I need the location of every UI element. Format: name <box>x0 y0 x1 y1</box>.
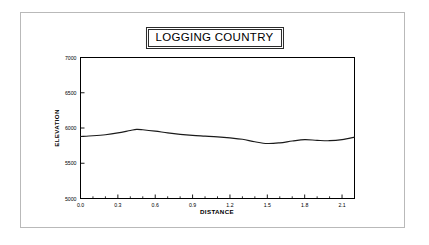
x-axis-title: DISTANCE <box>200 208 234 215</box>
x-tick-label: 1.8 <box>301 202 308 208</box>
y-tick-label: 7000 <box>65 55 77 61</box>
y-axis-title: ELEVATION <box>53 109 60 147</box>
plot-area-rect <box>81 58 355 199</box>
chart-figure: LOGGING COUNTRY 50005500600065007000 0.0… <box>0 0 429 245</box>
x-tick-label: 0.0 <box>77 202 84 208</box>
y-tick-label: 6500 <box>65 90 77 96</box>
y-tick-label: 5500 <box>65 160 77 166</box>
x-tick-label: 0.3 <box>114 202 121 208</box>
plot-svg: 50005500600065007000 0.00.30.60.91.21.51… <box>0 0 429 245</box>
x-tick-label: 1.5 <box>264 202 271 208</box>
x-tick-label: 2.1 <box>338 202 345 208</box>
y-tick-label: 6000 <box>65 125 77 131</box>
axes-frame <box>81 58 355 199</box>
y-tick-label: 5000 <box>65 196 77 202</box>
x-tick-label: 0.9 <box>189 202 196 208</box>
x-tick-label: 0.6 <box>152 202 159 208</box>
y-axis-tick-labels: 50005500600065007000 <box>65 55 77 202</box>
